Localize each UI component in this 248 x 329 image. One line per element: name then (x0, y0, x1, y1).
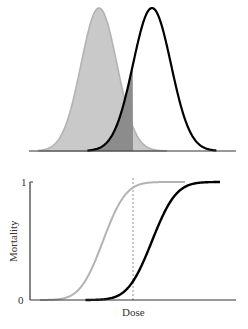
mortality-panel: 1 0 Mortality Dose (7, 176, 236, 318)
gray-distribution-curve (39, 8, 166, 151)
gray-mortality-curve (40, 182, 185, 300)
distribution-panel (29, 8, 236, 151)
y-tick-label-1: 1 (21, 176, 27, 188)
black-mortality-curve (86, 182, 221, 300)
chart-canvas: 1 0 Mortality Dose (0, 0, 248, 329)
y-axis-label: Mortality (7, 220, 19, 262)
x-axis-label: Dose (122, 306, 145, 318)
y-tick-label-0: 0 (18, 294, 24, 306)
